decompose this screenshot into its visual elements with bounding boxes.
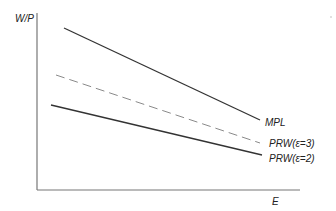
chart: W/P E MPL PRW(ε=3) PRW(ε=2) <box>0 0 336 211</box>
mpl-label: MPL <box>265 117 286 128</box>
y-axis-label: W/P <box>15 13 34 24</box>
x-axis-label: E <box>272 196 279 207</box>
prw-eps2-line <box>51 105 262 155</box>
prw-eps3-line <box>56 75 260 143</box>
mpl-line <box>64 28 260 120</box>
prw-eps2-label: PRW(ε=2) <box>269 153 315 164</box>
speck-mark <box>330 16 332 18</box>
prw-eps3-label: PRW(ε=3) <box>269 138 315 149</box>
